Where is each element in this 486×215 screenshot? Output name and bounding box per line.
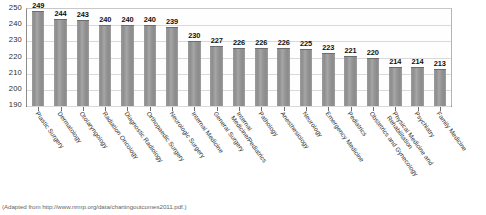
bar-value-label: 214 <box>412 57 424 66</box>
bar-slot: 221 <box>344 9 357 106</box>
bar[interactable] <box>255 48 268 106</box>
bar-slot: 214 <box>389 9 402 106</box>
bar-series: 2492442432402402402392302272262262262252… <box>27 9 451 106</box>
bar-value-label: 220 <box>367 48 379 57</box>
y-axis-tick-label: 250 <box>9 4 22 12</box>
bar-slot: 227 <box>210 9 223 106</box>
bar-value-label: 225 <box>300 39 312 48</box>
y-axis: 250240230220210200190 <box>0 8 24 107</box>
bar-value-label: 223 <box>322 43 334 52</box>
bar-slot: 223 <box>322 9 335 106</box>
bar-slot: 244 <box>54 9 67 106</box>
bar-slot: 243 <box>77 9 90 106</box>
y-axis-tick-label: 190 <box>9 101 22 109</box>
figure-caption: (Adapted from http://www.nrmp.org/data/c… <box>2 203 186 210</box>
x-axis-category-label: Psychiatry <box>413 110 436 138</box>
bar-slot: 239 <box>166 9 179 106</box>
bar-value-label: 243 <box>77 10 89 19</box>
bar-value-label: 239 <box>166 17 178 26</box>
bar-slot: 240 <box>99 9 112 106</box>
bar-value-label: 221 <box>345 46 357 55</box>
bar[interactable] <box>277 48 290 106</box>
bar[interactable] <box>54 19 67 106</box>
bar-slot: 213 <box>434 9 447 106</box>
bar-slot: 240 <box>144 9 157 106</box>
bar-value-label: 240 <box>99 15 111 24</box>
bar-value-label: 213 <box>434 59 446 68</box>
bar[interactable] <box>233 48 246 106</box>
bar-slot: 230 <box>188 9 201 106</box>
bar-value-label: 240 <box>121 15 133 24</box>
bar-slot: 249 <box>32 9 45 106</box>
bar[interactable] <box>411 67 424 106</box>
bar[interactable] <box>121 25 134 106</box>
x-axis-category-label: Pediatrics <box>346 110 368 137</box>
y-axis-tick-label: 230 <box>9 36 22 44</box>
bar[interactable] <box>32 11 45 106</box>
bar-slot: 226 <box>255 9 268 106</box>
bar-value-label: 230 <box>188 31 200 40</box>
bar-chart-figure: 250240230220210200190 249244243240240240… <box>0 0 486 215</box>
bar-value-label: 226 <box>278 38 290 47</box>
bar[interactable] <box>367 58 380 107</box>
bar[interactable] <box>434 69 447 106</box>
bar[interactable] <box>77 20 90 106</box>
bar[interactable] <box>99 25 112 106</box>
y-axis-tick-label: 240 <box>9 20 22 28</box>
x-axis-labels: Plastic SurgeryDermatologyOtolaryngology… <box>27 110 485 198</box>
bar[interactable] <box>144 25 157 106</box>
y-axis-tick-label: 200 <box>9 85 22 93</box>
bar[interactable] <box>166 27 179 106</box>
bar-value-label: 226 <box>233 38 245 47</box>
bar-value-label: 240 <box>144 15 156 24</box>
bar[interactable] <box>389 67 402 106</box>
bar-slot: 220 <box>367 9 380 106</box>
bar-slot: 240 <box>121 9 134 106</box>
bar-slot: 214 <box>411 9 424 106</box>
bar-value-label: 244 <box>54 9 66 18</box>
y-axis-tick-label: 210 <box>9 69 22 77</box>
bar[interactable] <box>344 56 357 106</box>
bar[interactable] <box>188 41 201 106</box>
x-axis-category-label: Diagnostic Radiology <box>123 110 165 164</box>
x-axis-category-label: Family Medicine <box>436 110 469 152</box>
x-axis-category-label: Emergency Medicine <box>324 110 365 163</box>
bar-slot: 225 <box>300 9 313 106</box>
bar-value-label: 214 <box>389 57 401 66</box>
bar[interactable] <box>322 53 335 106</box>
bar[interactable] <box>210 46 223 106</box>
bar[interactable] <box>300 49 313 106</box>
bar-value-label: 227 <box>211 36 223 45</box>
x-axis-category-label: Neurology <box>302 110 325 138</box>
bar-slot: 226 <box>277 9 290 106</box>
bar-value-label: 226 <box>255 38 267 47</box>
x-axis-category-label: Pathology <box>257 110 280 137</box>
y-axis-tick-label: 220 <box>9 53 22 61</box>
bar-value-label: 249 <box>32 1 44 10</box>
bar-slot: 226 <box>233 9 246 106</box>
